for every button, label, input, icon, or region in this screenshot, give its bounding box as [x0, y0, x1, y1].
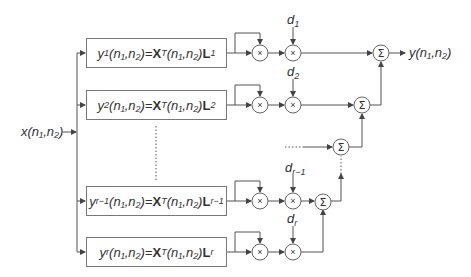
sigma-icon: Σ [378, 47, 385, 60]
filter-box-1: y1(n₁,n₂)=XT(n₁,n₂)L1 [86, 38, 227, 68]
input-label: x(n₁,n₂) [21, 124, 63, 139]
filter-box-2: y2(n₁,n₂)=XT(n₁,n₂)L2 [86, 90, 227, 120]
weight-label-dr-minus-1: dr−1 [285, 160, 306, 177]
output-label: y(n₁,n₂) [409, 45, 451, 60]
times-icon: × [290, 196, 295, 206]
times-icon: × [257, 48, 262, 58]
connections-layer: × × × × × × × × Σ Σ Σ Σ [0, 0, 471, 277]
times-icon: × [257, 247, 262, 257]
filter-box-r-minus-1: yr−1(n₁,n₂)=XT(n₁,n₂)Lr−1 [86, 186, 227, 216]
weight-label-dr: dr [287, 211, 297, 228]
branch-r-wires [226, 210, 323, 252]
times-icon: × [257, 100, 262, 110]
diagram-canvas: × × × × × × × × Σ Σ Σ Σ x(n₁,n₂) y(n₁,n₂… [0, 0, 471, 277]
sigma-icon: Σ [338, 141, 345, 154]
times-icon: × [290, 247, 295, 257]
times-icon: × [290, 100, 295, 110]
times-icon: × [290, 48, 295, 58]
weight-label-d2: d2 [287, 64, 299, 81]
sigma-icon: Σ [320, 196, 327, 209]
filter-box-r: yr(n₁,n₂)=XT(n₁,n₂)Lr [86, 237, 227, 267]
sigma-icon: Σ [359, 99, 366, 112]
weight-label-d1: d1 [287, 12, 299, 29]
times-icon: × [257, 196, 262, 206]
